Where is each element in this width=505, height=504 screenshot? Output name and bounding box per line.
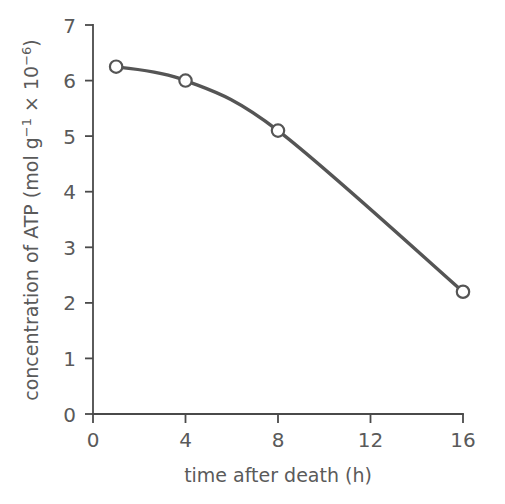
- y-axis-title-sup-2: −6: [19, 47, 34, 66]
- y-axis-title-sup-1: −1: [19, 118, 34, 137]
- y-tick-label: 7: [63, 14, 76, 38]
- data-point-marker: [272, 124, 284, 136]
- data-point-marker: [179, 74, 191, 86]
- y-axis-title-mid: × 10: [20, 66, 42, 118]
- x-axis-title: time after death (h): [184, 464, 372, 486]
- x-tick-label: 16: [450, 428, 475, 452]
- y-axis-title-main: concentration of ATP (mol g: [20, 137, 42, 401]
- y-tick-label: 0: [63, 403, 76, 427]
- y-tick-label: 5: [63, 125, 76, 149]
- data-point-marker: [457, 286, 469, 298]
- y-tick-label: 3: [63, 236, 76, 260]
- y-tick-label: 4: [63, 180, 76, 204]
- data-point-marker: [110, 60, 122, 72]
- chart-figure: 0 1 2 3 4 5 6 7 0 4 8 12 16 time after d…: [0, 0, 505, 504]
- y-tick-label: 2: [63, 291, 76, 315]
- x-tick-label: 8: [272, 428, 285, 452]
- atp-decay-line-chart: 0 1 2 3 4 5 6 7 0 4 8 12 16 time after d…: [0, 0, 505, 504]
- y-tick-label: 6: [63, 69, 76, 93]
- y-axis-title-end: ): [20, 39, 42, 46]
- y-tick-label: 1: [63, 347, 76, 371]
- x-tick-label: 4: [179, 428, 192, 452]
- x-tick-label: 12: [358, 428, 383, 452]
- x-tick-label: 0: [87, 428, 100, 452]
- y-axis-title: concentration of ATP (mol g−1 × 10−6): [19, 39, 42, 401]
